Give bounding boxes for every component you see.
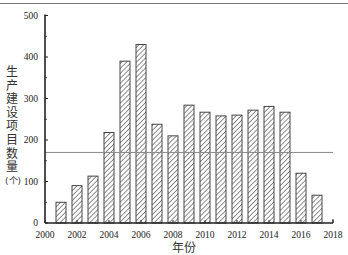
bar-2011 bbox=[216, 116, 226, 223]
bar-2015 bbox=[280, 112, 290, 223]
bar-2002 bbox=[72, 186, 82, 223]
bar-2010 bbox=[200, 112, 210, 223]
y-axis-label-char: 产 bbox=[5, 80, 19, 94]
x-tick-label: 2016 bbox=[292, 230, 311, 240]
bar-2009 bbox=[184, 105, 194, 223]
x-axis-label: 年份 bbox=[172, 238, 196, 255]
bar-2008 bbox=[168, 136, 178, 223]
y-tick-label: 400 bbox=[24, 52, 39, 62]
x-tick-label: 2012 bbox=[228, 230, 247, 240]
x-tick-label: 2000 bbox=[36, 230, 55, 240]
y-axis-label-char: 量 bbox=[5, 161, 19, 175]
bar-2007 bbox=[152, 124, 162, 223]
y-tick-label: 0 bbox=[33, 218, 38, 228]
bar-2001 bbox=[56, 202, 66, 223]
y-axis-label-char: 项 bbox=[5, 120, 19, 134]
x-tick-label: 2018 bbox=[324, 230, 343, 240]
y-axis-label-char: 目 bbox=[5, 134, 19, 148]
y-axis-label: 生产建设项目数量(个) bbox=[5, 66, 19, 188]
bar-2005 bbox=[120, 61, 130, 223]
x-tick-label: 2010 bbox=[196, 230, 215, 240]
bar-2004 bbox=[104, 133, 114, 223]
x-tick-label: 2002 bbox=[68, 230, 87, 240]
bar-2006 bbox=[136, 45, 146, 223]
x-tick-label: 2004 bbox=[100, 230, 119, 240]
bar-chart: 0100200300400500200020022004200620082010… bbox=[0, 0, 348, 255]
bar-2013 bbox=[248, 110, 258, 223]
y-tick-label: 500 bbox=[24, 11, 39, 21]
bar-2012 bbox=[232, 115, 242, 223]
y-tick-label: 100 bbox=[24, 177, 39, 187]
bar-2017 bbox=[312, 195, 322, 223]
y-tick-label: 200 bbox=[24, 135, 39, 145]
x-tick-label: 2014 bbox=[260, 230, 279, 240]
y-axis-label-char: 建 bbox=[5, 93, 19, 107]
bar-2016 bbox=[296, 173, 306, 223]
y-axis-label-char: 数 bbox=[5, 148, 19, 162]
bar-2003 bbox=[88, 176, 98, 223]
bar-2014 bbox=[264, 106, 274, 223]
y-axis-label-char: (个) bbox=[5, 175, 19, 189]
x-tick-label: 2006 bbox=[132, 230, 151, 240]
bars-group bbox=[56, 45, 322, 223]
y-axis-label-char: 设 bbox=[5, 107, 19, 121]
y-tick-label: 300 bbox=[24, 94, 39, 104]
y-axis-label-char: 生 bbox=[5, 66, 19, 80]
